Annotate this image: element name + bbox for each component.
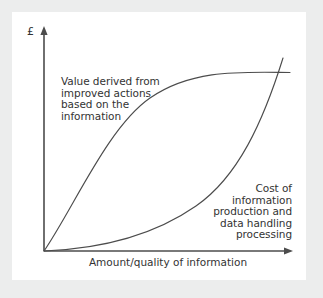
cost-curve-annotation: Cost of information production and data … (158, 183, 292, 241)
x-axis-label: Amount/quality of information (44, 256, 292, 268)
value-curve-annotation: Value derived from improved actions base… (61, 76, 191, 122)
x-axis-arrow-icon (284, 247, 293, 254)
y-axis-label: £ (27, 25, 34, 38)
y-axis-arrow-icon (40, 26, 47, 35)
chart-figure: £ Amount/quality of information Value de… (0, 0, 323, 298)
chart-plot-area (0, 0, 323, 298)
